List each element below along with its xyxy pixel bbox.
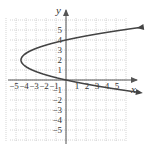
svg-text:1: 1 xyxy=(58,65,63,75)
y-axis-arrow-icon xyxy=(63,9,69,16)
svg-text:−3: −3 xyxy=(29,81,39,91)
svg-text:3: 3 xyxy=(58,45,63,55)
svg-text:5: 5 xyxy=(58,25,63,35)
svg-text:4: 4 xyxy=(58,35,63,45)
svg-text:2: 2 xyxy=(85,81,90,91)
svg-text:−4: −4 xyxy=(19,81,29,91)
svg-text:−4: −4 xyxy=(52,115,62,125)
svg-text:−1: −1 xyxy=(52,85,62,95)
svg-text:−5: −5 xyxy=(52,125,62,135)
x-tick-labels: −5−4−3−2−112345 xyxy=(9,81,120,91)
svg-text:−2: −2 xyxy=(39,81,49,91)
x-axis-label: x xyxy=(130,83,136,95)
y-axis-label: y xyxy=(55,4,61,16)
curve-arrow-icon xyxy=(135,89,142,95)
parabola-chart: x y −5−4−3−2−112345 54321−1−2−3−4−5 xyxy=(0,0,145,149)
svg-text:−2: −2 xyxy=(52,95,62,105)
svg-text:2: 2 xyxy=(58,55,63,65)
svg-text:4: 4 xyxy=(105,81,110,91)
svg-text:−3: −3 xyxy=(52,105,62,115)
svg-text:−5: −5 xyxy=(9,81,19,91)
